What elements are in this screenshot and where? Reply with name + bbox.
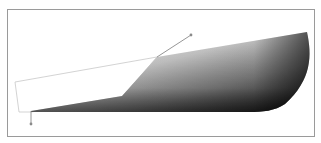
bottom-left-handle-anchor-icon[interactable] <box>30 123 33 126</box>
drawing-canvas[interactable] <box>0 0 321 143</box>
top-handle-anchor-icon[interactable] <box>190 34 193 37</box>
vector-artwork[interactable] <box>0 0 321 143</box>
